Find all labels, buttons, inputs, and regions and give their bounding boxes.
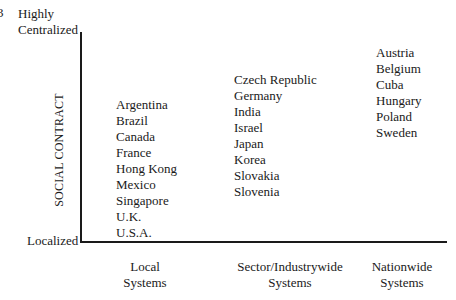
country-item: Czech Republic: [234, 72, 317, 88]
country-item: Poland: [376, 109, 422, 125]
country-item: Cuba: [376, 77, 422, 93]
country-item: Israel: [234, 120, 317, 136]
y-axis-line: [80, 32, 82, 243]
country-item: Hong Kong: [116, 161, 177, 177]
country-item: Korea: [234, 152, 317, 168]
country-item: Mexico: [116, 177, 177, 193]
country-item: U.S.A.: [116, 225, 177, 241]
y-axis-bottom-label: Localized: [27, 233, 78, 249]
x-category-local: Local Systems: [123, 259, 166, 291]
y-axis-top-label-line2: Centralized: [18, 22, 78, 38]
country-item: Sweden: [376, 125, 422, 141]
x-category-line1: Local: [123, 259, 166, 275]
country-item: Austria: [376, 45, 422, 61]
country-item: Hungary: [376, 93, 422, 109]
y-axis-title: SOCIAL CONTRACT: [52, 93, 67, 207]
country-item: Canada: [116, 129, 177, 145]
country-item: Slovenia: [234, 184, 317, 200]
country-item: Singapore: [116, 193, 177, 209]
x-category-line2: Systems: [123, 275, 166, 291]
country-item: Germany: [234, 88, 317, 104]
country-item: Brazil: [116, 113, 177, 129]
country-list-nationwide: Austria Belgium Cuba Hungary Poland Swed…: [376, 45, 422, 141]
x-category-nationwide: Nationwide Systems: [372, 259, 433, 291]
country-item: France: [116, 145, 177, 161]
x-category-line2: Systems: [372, 275, 433, 291]
figure-number-fragment: 3: [0, 5, 4, 21]
country-item: Slovakia: [234, 168, 317, 184]
country-item: India: [234, 104, 317, 120]
x-category-line2: Systems: [237, 275, 342, 291]
country-item: Belgium: [376, 61, 422, 77]
country-list-sector: Czech Republic Germany India Israel Japa…: [234, 72, 317, 200]
y-axis-top-label: Highly Centralized: [18, 6, 78, 38]
x-category-line1: Sector/Industrywide: [237, 259, 342, 275]
y-axis-top-label-line1: Highly: [18, 6, 78, 22]
country-item: Argentina: [116, 97, 177, 113]
x-category-line1: Nationwide: [372, 259, 433, 275]
x-axis-line: [80, 241, 447, 243]
country-list-local: Argentina Brazil Canada France Hong Kong…: [116, 97, 177, 241]
country-item: U.K.: [116, 209, 177, 225]
x-category-sector: Sector/Industrywide Systems: [237, 259, 342, 291]
country-item: Japan: [234, 136, 317, 152]
